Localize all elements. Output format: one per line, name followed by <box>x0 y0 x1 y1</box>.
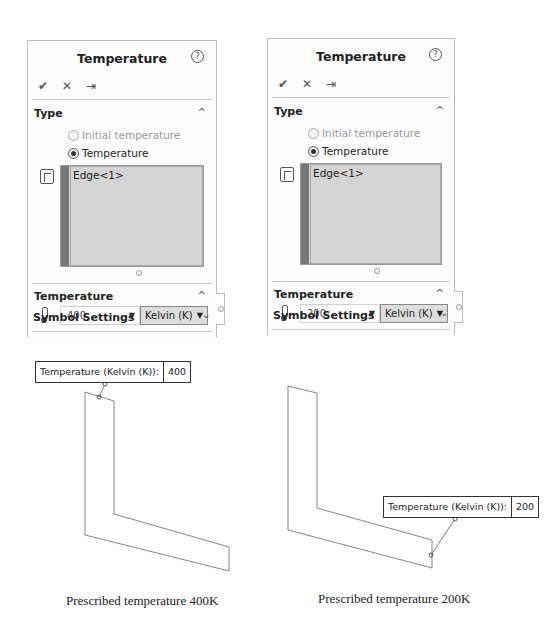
caption-400k: Prescribed temperature 400K <box>66 593 218 609</box>
temperature-callout-2[interactable]: Temperature (Kelvin (K)): 200 <box>383 496 539 518</box>
callout-label: Temperature (Kelvin (K)): <box>384 497 512 517</box>
callout-value: 200 <box>512 497 538 517</box>
callout-leader <box>431 519 455 555</box>
l-bracket-model-1[interactable] <box>85 392 229 571</box>
callout-label: Temperature (Kelvin (K)): <box>36 362 164 382</box>
l-bracket-model-2[interactable] <box>288 386 432 568</box>
caption-200k: Prescribed temperature 200K <box>318 591 470 607</box>
temperature-callout-1[interactable]: Temperature (Kelvin (K)): 400 <box>35 361 191 383</box>
model-graphics <box>0 0 552 636</box>
callout-value: 400 <box>164 362 190 382</box>
